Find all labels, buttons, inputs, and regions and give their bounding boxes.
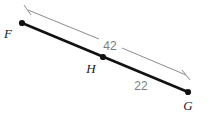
point-label-h: H (85, 61, 96, 76)
point-h-dot (100, 54, 106, 60)
point-g-dot (185, 89, 191, 95)
dimension-label-22: 22 (134, 79, 148, 93)
geometry-figure: F H G 42 22 (0, 0, 209, 115)
dimension-label-42: 42 (103, 39, 117, 53)
figure-canvas: F H G 42 22 (0, 0, 209, 115)
point-label-g: G (183, 98, 193, 113)
point-label-f: F (3, 26, 13, 41)
point-f-dot (19, 20, 25, 26)
